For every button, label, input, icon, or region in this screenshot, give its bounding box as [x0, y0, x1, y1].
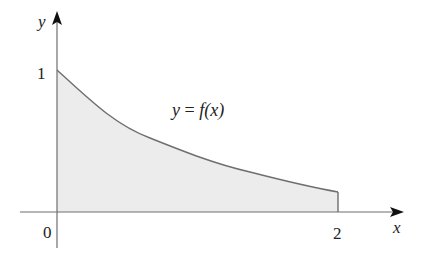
shaded-region [57, 70, 338, 212]
x-axis-label: x [392, 218, 401, 237]
curve-label-rhs: f(x) [199, 100, 224, 121]
x-tick-label-2: 2 [333, 224, 342, 243]
origin-label: 0 [43, 223, 52, 242]
y-tick-label-1: 1 [37, 64, 46, 83]
y-axis-label: y [36, 12, 46, 31]
curve-label: y = f(x) [170, 100, 224, 121]
curve-label-lhs: y [170, 100, 180, 120]
area-diagram: y 1 0 2 x y = f(x) [0, 0, 426, 262]
curve-label-eq: = [185, 100, 195, 120]
